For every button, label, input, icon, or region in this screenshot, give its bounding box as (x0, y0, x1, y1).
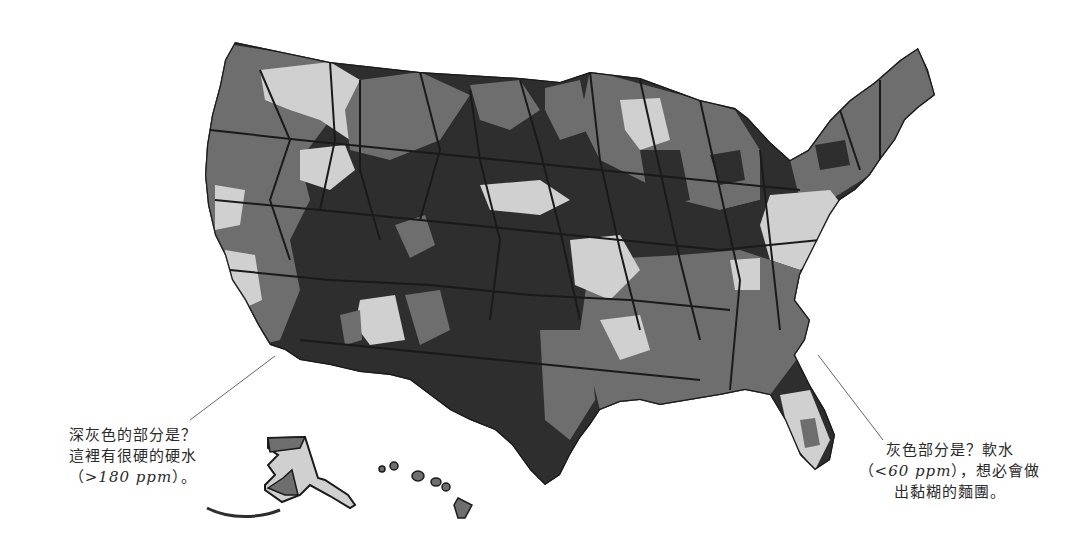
paren-open: （ (859, 462, 875, 480)
soft-water-ppm: <60 ppm (875, 462, 952, 480)
hard-water-annotation-line-2: 這裡有很硬的硬水 (28, 446, 238, 467)
contiguous-us (200, 40, 940, 490)
hard-water-leader-line (190, 356, 275, 420)
soft-water-annotation-line-2: （<60 ppm），想必會做 (842, 461, 1057, 482)
paren-close: ）。 (172, 468, 197, 486)
hard-water-annotation-line-1: 深灰色的部分是？ (28, 425, 238, 446)
hard-water-annotation-line-3: （>180 ppm）。 (28, 467, 238, 488)
soft-water-annotation: 灰色部分是？軟水 （<60 ppm），想必會做 出黏糊的麵團。 (842, 440, 1057, 503)
paren-open: （ (69, 468, 85, 486)
soft-water-annotation-line-3: 出黏糊的麵團。 (842, 482, 1057, 503)
hard-water-annotation: 深灰色的部分是？ 這裡有很硬的硬水 （>180 ppm）。 (28, 425, 238, 488)
paren-close: ），想必會做 (951, 462, 1040, 480)
hawaii (379, 462, 472, 518)
soft-water-region (730, 258, 760, 290)
very-hard-water-region (815, 140, 850, 170)
soft-water-region (760, 190, 850, 270)
soft-water-annotation-line-1: 灰色部分是？軟水 (842, 440, 1057, 461)
hard-water-region (790, 48, 935, 200)
hard-water-ppm: >180 ppm (85, 468, 172, 486)
